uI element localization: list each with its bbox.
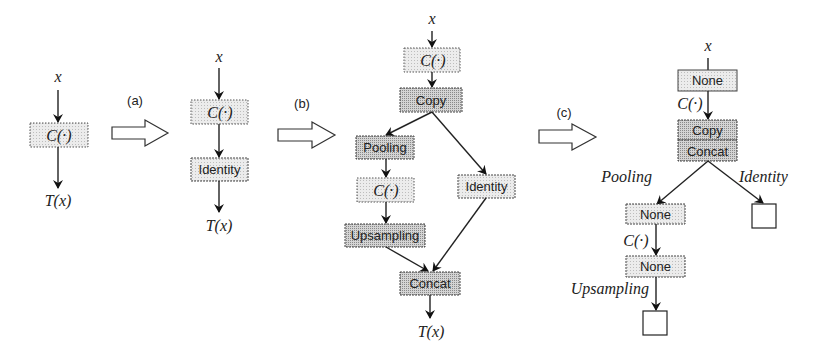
step-arrow-b: (b) [278, 96, 335, 148]
node-label: None [692, 73, 723, 88]
edge [433, 198, 486, 271]
hollow-arrow-icon [539, 124, 596, 150]
panel-identity-cell: x C(·) Identity T(x) [191, 48, 248, 235]
node-c: C(·) [191, 100, 248, 124]
node-concat: Concat [400, 272, 460, 295]
node-none-mid: None [626, 204, 685, 224]
empty-output-node [752, 204, 776, 228]
node-none-top: None [678, 70, 737, 91]
output-label: T(x) [45, 192, 72, 210]
step-label-a: (a) [127, 93, 143, 108]
edge [657, 161, 708, 204]
step-arrow-c: (c) [539, 105, 596, 150]
node-label: Upsampling [351, 228, 420, 243]
edge [432, 112, 486, 174]
node-identity: Identity [191, 158, 248, 181]
node-upsampling: Upsampling [345, 224, 425, 247]
node-copy: Copy [400, 88, 462, 112]
node-label: Identity [199, 162, 241, 177]
edge-label-identity: Identity [738, 168, 789, 186]
empty-output-node [643, 311, 667, 335]
node-none-bottom: None [626, 256, 685, 277]
hollow-arrow-icon [278, 122, 335, 148]
node-label-concat: Concat [687, 144, 729, 159]
panel-edge-form-cell: x None C(·) Copy Concat Pooling Identity… [571, 37, 789, 335]
step-label-b: (b) [294, 96, 310, 111]
node-c-mid: C(·) [357, 178, 414, 202]
node-label: Copy [416, 93, 447, 108]
node-c: C(·) [30, 123, 88, 147]
hollow-arrow-icon [112, 120, 168, 146]
node-pooling: Pooling [356, 136, 414, 159]
node-c-top: C(·) [404, 48, 460, 72]
node-label: None [640, 207, 671, 222]
edge-label-pooling: Pooling [600, 168, 652, 186]
node-label-copy: Copy [692, 123, 723, 138]
node-label: None [640, 259, 671, 274]
node-label: C(·) [373, 182, 398, 200]
edge [386, 112, 432, 135]
node-label: Identity [466, 179, 508, 194]
step-label-c: (c) [556, 105, 571, 120]
input-x-label: x [53, 68, 61, 85]
input-x-label: x [427, 10, 435, 27]
output-label: T(x) [418, 323, 445, 341]
panel-original-cell: x C(·) T(x) [30, 68, 88, 210]
edge-label-upsampling: Upsampling [571, 280, 649, 298]
node-label: C(·) [46, 127, 71, 145]
output-label: T(x) [206, 217, 233, 235]
edge-label-c-mid: C(·) [623, 232, 648, 250]
node-label: Concat [409, 276, 451, 291]
input-x-label: x [214, 48, 222, 65]
node-label: C(·) [420, 52, 445, 70]
edge-label-c-top: C(·) [677, 95, 702, 113]
node-copy-concat: Copy Concat [678, 120, 737, 161]
node-label: C(·) [207, 104, 232, 122]
node-identity: Identity [458, 175, 515, 198]
edge [386, 247, 428, 271]
input-x-label: x [703, 37, 711, 54]
panel-expanded-cell: x C(·) Copy Pooling C(·) Upsampling I [345, 10, 515, 341]
step-arrow-a: (a) [112, 93, 168, 146]
node-label: Pooling [363, 140, 406, 155]
search-space-diagram: x C(·) T(x) (a) x C(·) Identity T(x) (b) [0, 0, 818, 359]
